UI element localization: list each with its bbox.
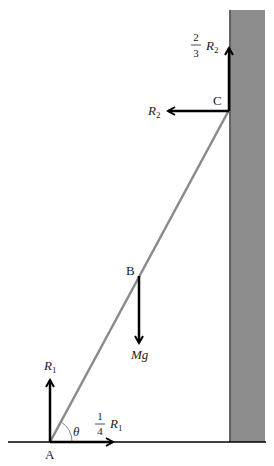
wall [229, 10, 265, 442]
force-friction-c-label: 2 3 R2 [191, 31, 218, 59]
point-b-label: B [126, 263, 135, 278]
svg-text:3: 3 [193, 47, 199, 59]
svg-text:1: 1 [97, 410, 103, 422]
angle-theta-label: θ [73, 424, 80, 439]
angle-arc [61, 422, 72, 442]
force-weight-label: Mg [130, 347, 149, 362]
ladder-diagram: θ R1 1 4 R1 A B Mg C R2 2 3 R2 [0, 0, 274, 466]
force-friction-a-label: 1 4 R1 [95, 410, 122, 437]
point-c-label: C [213, 93, 222, 108]
svg-text:2: 2 [193, 31, 199, 43]
force-r1-label: R1 [43, 358, 56, 375]
svg-text:R2: R2 [205, 38, 218, 55]
point-a-label: A [45, 447, 55, 462]
force-r2-label: R2 [147, 103, 160, 120]
svg-text:R1: R1 [109, 416, 122, 433]
svg-text:4: 4 [97, 425, 103, 437]
